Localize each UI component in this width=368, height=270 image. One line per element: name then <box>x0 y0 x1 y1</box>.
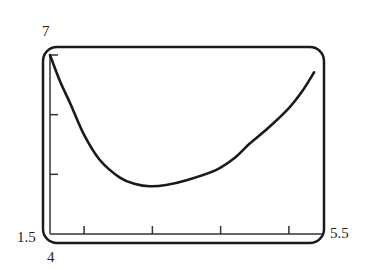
x-max-label: 5.5 <box>330 226 349 241</box>
tick-marks <box>50 55 289 234</box>
chart-plot-area <box>0 0 368 270</box>
axes <box>50 55 323 234</box>
x-min-label: 1.5 <box>17 230 36 245</box>
data-curve <box>50 55 314 186</box>
window-frame <box>43 47 324 243</box>
y-max-label: 7 <box>42 24 50 39</box>
y-min-label: 4 <box>47 250 55 265</box>
